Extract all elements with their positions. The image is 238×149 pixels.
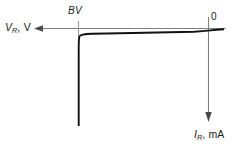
reverse-bias-characteristic-figure: VR, V BV 0 IR, mA [0,0,238,149]
x-axis-symbol: V [5,21,12,33]
x-axis-label: VR, V [5,22,31,34]
reverse-characteristic-curve [79,29,224,126]
x-axis-separator: , [17,21,20,33]
x-axis-unit: V [24,21,31,33]
origin-label: 0 [211,12,217,22]
breakdown-voltage-label: BV [68,6,82,16]
chart-canvas [0,0,238,149]
y-axis-separator: , [202,128,205,140]
x-axis-arrowhead-icon [34,25,43,32]
y-axis-label: IR, mA [194,129,224,141]
y-axis-unit: mA [209,128,225,140]
y-axis-arrowhead-icon [205,112,211,122]
y-axis [205,17,211,122]
